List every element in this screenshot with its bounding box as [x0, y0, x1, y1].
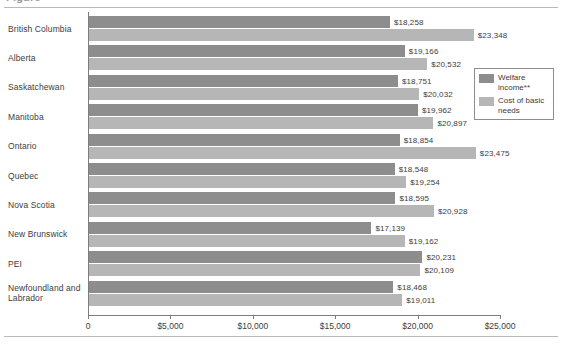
- x-axis: 0$5,000$10,000$15,000$20,000$25,000: [0, 315, 562, 350]
- bar-wrapper: $23,348: [89, 29, 562, 41]
- bar-wrapper: $20,109: [89, 264, 562, 276]
- category-label: Manitoba: [8, 112, 86, 122]
- bar-wrapper: $17,139: [89, 222, 562, 234]
- bar-cost-of-basic-needs: [89, 88, 419, 100]
- bar-cost-of-basic-needs: [89, 205, 434, 217]
- bar-welfare-income: [89, 163, 395, 175]
- bar-cost-of-basic-needs: [89, 147, 476, 159]
- bar-value-label: $19,962: [418, 106, 452, 115]
- bar-value-label: $17,139: [371, 223, 405, 232]
- x-tick-mark: [418, 315, 419, 319]
- bar-welfare-income: [89, 16, 390, 28]
- bar-value-label: $20,032: [419, 89, 453, 98]
- bar-welfare-income: [89, 192, 395, 204]
- x-tick-mark: [500, 315, 501, 319]
- bar-cost-of-basic-needs: [89, 58, 427, 70]
- bar-wrapper: $20,928: [89, 205, 562, 217]
- category-label: Ontario: [8, 141, 86, 151]
- plot-area: British Columbia$18,258$23,348Alberta$19…: [0, 12, 562, 315]
- bar-welfare-income: [89, 75, 398, 87]
- bar-cost-of-basic-needs: [89, 117, 433, 129]
- bar-welfare-income: [89, 281, 393, 293]
- x-tick-label: $20,000: [402, 321, 433, 331]
- bar-welfare-income: [89, 222, 371, 234]
- bar-rows: British Columbia$18,258$23,348Alberta$19…: [0, 14, 562, 308]
- bar-wrapper: $19,254: [89, 176, 562, 188]
- bar-group: $18,854$23,475: [89, 134, 562, 160]
- bar-value-label: $18,548: [395, 164, 429, 173]
- bar-value-label: $20,897: [433, 119, 467, 128]
- bar-cost-of-basic-needs: [89, 235, 405, 247]
- bar-group: $18,548$19,254: [89, 163, 562, 189]
- bar-wrapper: $20,231: [89, 251, 562, 263]
- x-tick-label: 0: [86, 321, 91, 331]
- bar-row: British Columbia$18,258$23,348: [0, 14, 562, 43]
- category-label: New Brunswick: [8, 229, 86, 239]
- title-divider: [4, 7, 558, 8]
- legend-label-welfare: Welfare income**: [498, 73, 549, 92]
- bar-value-label: $18,854: [400, 135, 434, 144]
- bar-wrapper: $19,011: [89, 294, 562, 306]
- category-label: Saskatchewan: [8, 82, 86, 92]
- category-label: Nova Scotia: [8, 200, 86, 210]
- chart-figure: Figure British Columbia$18,258$23,348Alb…: [0, 0, 562, 350]
- bar-welfare-income: [89, 134, 400, 146]
- bar-wrapper: $18,468: [89, 281, 562, 293]
- chart-legend: Welfare income** Cost of basic needs: [474, 68, 554, 120]
- x-tick-mark: [170, 315, 171, 319]
- x-axis-line: [88, 315, 500, 316]
- figure-title-text: Figure: [6, 0, 41, 3]
- bar-value-label: $19,162: [405, 236, 439, 245]
- bar-welfare-income: [89, 104, 418, 116]
- bar-value-label: $18,751: [398, 76, 432, 85]
- bar-group: $20,231$20,109: [89, 251, 562, 277]
- category-label: British Columbia: [8, 24, 86, 34]
- bar-group: $18,258$23,348: [89, 16, 562, 42]
- bar-group: $17,139$19,162: [89, 222, 562, 248]
- bar-value-label: $20,532: [427, 60, 461, 69]
- legend-item-basic-needs: Cost of basic needs: [479, 96, 549, 115]
- category-label: PEI: [8, 259, 86, 269]
- bar-welfare-income: [89, 251, 422, 263]
- legend-swatch-basic-needs-icon: [479, 97, 494, 106]
- bar-row: Quebec$18,548$19,254: [0, 161, 562, 190]
- category-label: Quebec: [8, 171, 86, 181]
- x-tick-label: $15,000: [320, 321, 351, 331]
- bar-value-label: $18,595: [395, 194, 429, 203]
- category-label: Alberta: [8, 53, 86, 63]
- bar-row: New Brunswick$17,139$19,162: [0, 220, 562, 249]
- bar-cost-of-basic-needs: [89, 176, 406, 188]
- bar-row: Ontario$18,854$23,475: [0, 132, 562, 161]
- bar-wrapper: $18,258: [89, 16, 562, 28]
- bar-value-label: $23,475: [476, 148, 510, 157]
- bar-value-label: $23,348: [474, 31, 508, 40]
- bar-group: $18,595$20,928: [89, 192, 562, 218]
- figure-title-cropped: Figure: [0, 0, 562, 6]
- legend-swatch-welfare-icon: [479, 74, 494, 83]
- x-tick-mark: [88, 315, 89, 319]
- bar-cost-of-basic-needs: [89, 264, 420, 276]
- bar-value-label: $20,109: [420, 266, 454, 275]
- x-tick-label: $5,000: [157, 321, 183, 331]
- x-tick-mark: [253, 315, 254, 319]
- bar-wrapper: $23,475: [89, 147, 562, 159]
- bar-wrapper: $18,595: [89, 192, 562, 204]
- bar-row: Nova Scotia$18,595$20,928: [0, 190, 562, 219]
- bar-value-label: $18,468: [393, 282, 427, 291]
- bar-wrapper: $19,166: [89, 45, 562, 57]
- bar-group: $18,468$19,011: [89, 281, 562, 307]
- x-tick-label: $10,000: [237, 321, 268, 331]
- bar-cost-of-basic-needs: [89, 29, 474, 41]
- bar-value-label: $19,166: [405, 47, 439, 56]
- bar-value-label: $19,254: [406, 177, 440, 186]
- legend-label-basic-needs: Cost of basic needs: [498, 96, 549, 115]
- bar-row: PEI$20,231$20,109: [0, 249, 562, 278]
- bottom-divider: [4, 336, 558, 337]
- bar-value-label: $19,011: [402, 295, 435, 304]
- x-tick-mark: [335, 315, 336, 319]
- category-label: Newfoundland and Labrador: [8, 283, 86, 303]
- bar-wrapper: $18,854: [89, 134, 562, 146]
- bar-value-label: $20,928: [434, 207, 468, 216]
- bar-wrapper: $19,162: [89, 235, 562, 247]
- bar-wrapper: $18,548: [89, 163, 562, 175]
